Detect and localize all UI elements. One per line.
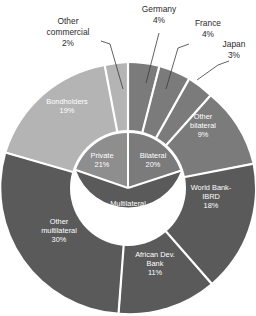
callout-germany-pct: 4% — [153, 15, 166, 25]
cropped-title-strip — [0, 0, 256, 7]
callout-other-commercial-pct: 2% — [62, 38, 75, 48]
label-bilateral: Bilateral — [140, 151, 167, 160]
callout-japan: Japan — [223, 39, 246, 49]
label-bondholders-pct: 19% — [60, 106, 75, 115]
label-african-dev-line1: African Dev. — [135, 250, 175, 259]
callout-other-commercial-line2: commercial — [47, 27, 90, 37]
callout-labels: Other commercial 2% Germany 4% France 4%… — [47, 4, 246, 60]
label-bondholders: Bondholders — [46, 97, 88, 106]
label-world-bank-line1: World Bank- — [191, 183, 232, 192]
callout-other-commercial-line1: Other — [58, 16, 79, 26]
callout-france-pct: 4% — [202, 29, 215, 39]
label-private-pct: 21% — [95, 160, 110, 169]
label-african-dev-line2: Bank — [147, 259, 164, 268]
label-multilateral: Multilateral — [110, 199, 146, 208]
label-private: Private — [90, 151, 113, 160]
donut-chart: Private 21% Bilateral 20% Multilateral 5… — [0, 0, 256, 316]
chart-svg: Private 21% Bilateral 20% Multilateral 5… — [0, 0, 256, 316]
callout-japan-pct: 3% — [228, 50, 241, 60]
label-world-bank-line2: IBRD — [202, 192, 220, 201]
label-bilateral-pct: 20% — [146, 160, 161, 169]
label-world-bank-pct: 18% — [204, 201, 219, 210]
label-african-dev-pct: 11% — [148, 268, 163, 277]
label-other-bilateral-line1: Other — [194, 112, 213, 121]
label-multilateral-pct: 59% — [121, 208, 136, 217]
label-other-multilateral-pct: 30% — [52, 235, 67, 244]
label-other-bilateral-line2: bilateral — [190, 121, 216, 130]
callout-france: France — [195, 18, 221, 28]
label-other-bilateral-pct: 9% — [198, 130, 209, 139]
label-other-multilateral-line2: multilateral — [41, 226, 77, 235]
label-other-multilateral-line1: Other — [50, 217, 69, 226]
leader-japan — [197, 61, 229, 80]
